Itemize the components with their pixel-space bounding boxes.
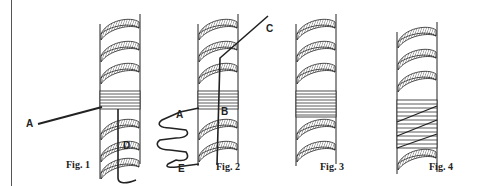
fig2-label-b: B [221, 107, 228, 117]
fig3-rope [296, 14, 336, 166]
fig1-rope [100, 14, 140, 179]
fig4-caption: Fig. 4 [429, 162, 453, 172]
fig2-label-a: A [176, 110, 183, 120]
diagram-canvas: A D A B C E Fig. 1 Fig. 2 Fig. 3 Fig. 4 [0, 0, 477, 186]
fig4-rope [397, 22, 437, 174]
fig3-caption: Fig. 3 [320, 162, 344, 172]
fig1-label-a: A [26, 119, 33, 129]
fig1-caption: Fig. 1 [66, 160, 90, 170]
fig2-caption: Fig. 2 [216, 162, 240, 172]
fig2-label-e: E [178, 164, 185, 174]
fig1-label-d: D [123, 141, 130, 151]
fig2-label-c: C [266, 24, 273, 34]
